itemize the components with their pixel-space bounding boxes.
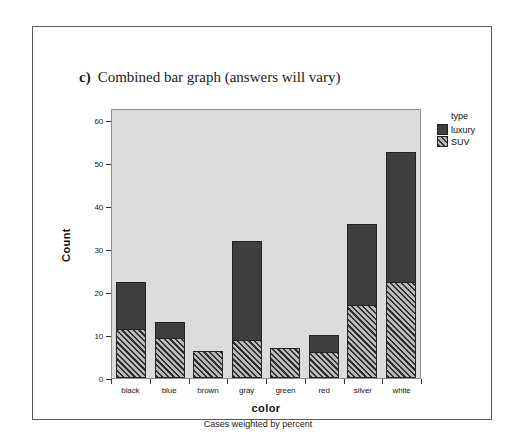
bar-segment-luxury-red[interactable] [309,335,339,353]
x-tick-mark [227,379,228,384]
bar-brown[interactable] [193,110,223,378]
bar-chart: 0102030405060 Count blackbluebrowngraygr… [111,109,421,381]
bar-segment-luxury-black[interactable] [116,282,146,329]
x-axis-tick-labels: blackbluebrowngraygreenredsilverwhite [111,386,421,400]
bar-group [112,110,420,378]
bar-black[interactable] [116,110,146,378]
x-tick-mark [382,379,383,384]
x-tick-mark [421,379,422,384]
x-tick-mark [266,379,267,384]
bar-green[interactable] [270,110,300,378]
x-tick-label-blue: blue [150,386,188,400]
legend-label-suv: SUV [451,137,470,147]
x-tick-mark [305,379,306,384]
legend-item-suv: SUV [437,136,517,147]
x-tick-label-silver: silver [344,386,382,400]
bar-segment-suv-black[interactable] [116,329,146,378]
legend-swatch-suv-icon [437,136,448,147]
bar-blue[interactable] [155,110,185,378]
x-tick-label-black: black [111,386,149,400]
y-tick-mark [106,293,111,294]
x-tick-mark [344,379,345,384]
bar-segment-suv-white[interactable] [386,282,416,378]
plot-area [111,109,421,379]
y-tick-mark [106,164,111,165]
x-tick-label-brown: brown [189,386,227,400]
legend-item-luxury: luxury [437,124,517,135]
x-tick-label-green: green [266,386,304,400]
y-tick-label: 0 [99,374,106,383]
bar-silver[interactable] [347,110,377,378]
x-tick-mark [189,379,190,384]
y-tick-mark [106,336,111,337]
y-tick-mark [106,250,111,251]
y-tick-label: 30 [95,245,107,254]
legend-label-luxury: luxury [451,125,475,135]
bar-segment-luxury-gray[interactable] [232,241,262,340]
caption-text: Combined bar graph (answers will vary) [98,69,341,85]
x-tick-label-white: white [383,386,421,400]
y-tick-label: 50 [95,160,107,169]
bar-gray[interactable] [232,110,262,378]
bar-segment-suv-red[interactable] [309,352,339,378]
x-tick-mark [111,379,112,384]
y-tick-label: 60 [95,117,107,126]
bar-segment-luxury-white[interactable] [386,152,416,282]
caption: c)Combined bar graph (answers will vary) [79,69,341,86]
footnote: Cases weighted by percent [65,419,451,429]
bar-white[interactable] [386,110,416,378]
bar-segment-suv-gray[interactable] [232,340,262,378]
bar-segment-suv-silver[interactable] [347,305,377,378]
caption-letter: c) [79,69,91,85]
y-axis-label: Count [60,228,72,262]
legend: type luxury SUV [437,111,517,148]
x-tick-label-gray: gray [228,386,266,400]
y-tick-label: 40 [95,203,107,212]
y-tick-mark [106,207,111,208]
y-tick-label: 20 [95,288,107,297]
exercise-frame: c)Combined bar graph (answers will vary)… [32,26,492,420]
x-axis-label: color [111,402,421,414]
y-axis: 0102030405060 [77,109,111,379]
bar-segment-luxury-blue[interactable] [155,322,185,338]
x-tick-mark [150,379,151,384]
legend-swatch-luxury-icon [437,124,448,135]
page-root: c)Combined bar graph (answers will vary)… [0,0,522,448]
bar-segment-suv-green[interactable] [270,348,300,378]
y-tick-mark [106,121,111,122]
bar-segment-suv-brown[interactable] [193,351,223,378]
x-tick-label-red: red [305,386,343,400]
bar-red[interactable] [309,110,339,378]
y-tick-label: 10 [95,331,107,340]
legend-title: type [451,111,517,121]
bar-segment-luxury-silver[interactable] [347,224,377,305]
bar-segment-suv-blue[interactable] [155,338,185,378]
